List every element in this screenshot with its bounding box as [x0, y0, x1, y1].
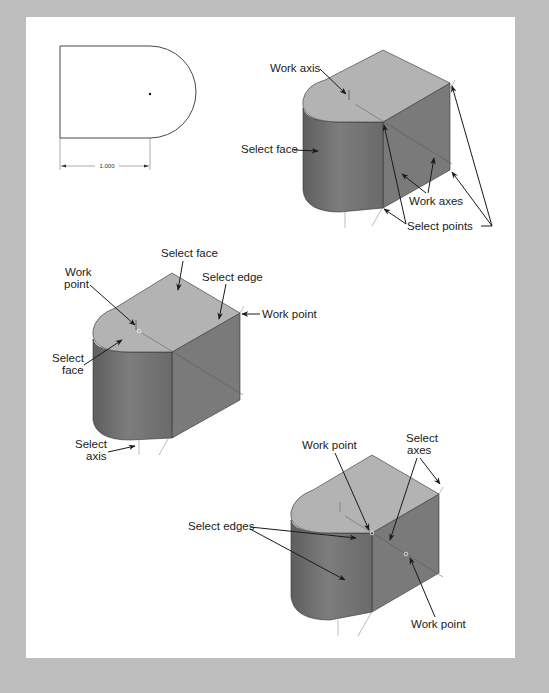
label-work-axis: Work axis — [270, 62, 321, 74]
label-work-point-bottom: Work point — [411, 618, 467, 630]
figure-canvas: 1.000 Work axis Select face Work axes Se… — [0, 0, 549, 693]
label-select-face: Select face — [241, 143, 298, 155]
label-select-points: Select points — [407, 220, 473, 232]
label-work-point-top: Work point — [302, 439, 358, 451]
view3-solid — [291, 455, 443, 636]
label-select-face-left-line2: face — [62, 364, 84, 376]
label-select-axes-line2: axes — [407, 444, 432, 456]
label-select-face-left-line1: Select — [52, 352, 85, 364]
profile-sketch: 1.000 — [60, 46, 196, 170]
center-point — [149, 93, 151, 95]
label-select-axis-line2: axis — [86, 450, 107, 462]
label-work-point-line1: Work — [65, 266, 92, 278]
label-select-edges: Select edges — [188, 520, 255, 532]
label-select-axes-line1: Select — [406, 432, 439, 444]
label-work-axes: Work axes — [409, 195, 463, 207]
label-select-edge: Select edge — [202, 271, 263, 283]
label-work-point-line2: point — [64, 278, 90, 290]
view2-solid — [93, 273, 244, 455]
dimension-value: 1.000 — [99, 163, 115, 169]
label-work-point-right: Work point — [262, 308, 318, 320]
label-select-axis-line1: Select — [75, 438, 108, 450]
label-select-face-top: Select face — [161, 247, 218, 259]
